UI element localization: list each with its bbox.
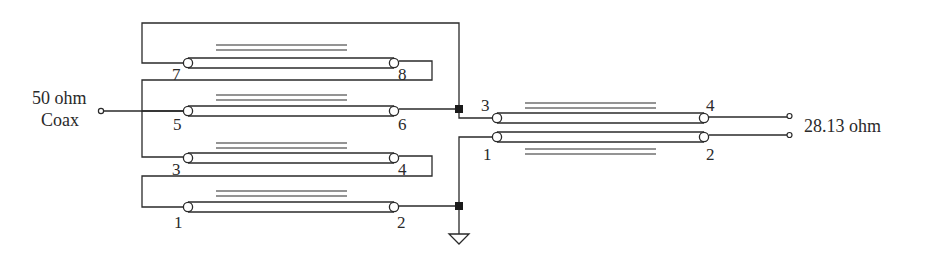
output-label-impedance: 28.13 ohm: [804, 116, 881, 136]
line-5-6: 5 6: [173, 95, 407, 134]
junction-dot-icon: [455, 202, 463, 210]
coax-end-icon: [492, 132, 501, 141]
coax-end-icon: [183, 106, 192, 115]
schematic-svg: 50 ohm Coax 7 8 5 6: [0, 0, 925, 257]
line-7-8: 7 8: [172, 45, 407, 84]
line-1-2: 1 2: [174, 191, 406, 232]
output-terminal-icon: [787, 133, 792, 138]
coax-end-icon: [492, 113, 501, 122]
junction-dot-icon: [455, 105, 463, 113]
output-port: 28.13 ohm: [709, 114, 881, 138]
output-terminal-icon: [787, 114, 792, 119]
coax-end-icon: [183, 202, 192, 211]
input-label-impedance: 50 ohm: [32, 88, 87, 108]
pin-label: 8: [398, 65, 407, 84]
pin-label: 2: [706, 145, 715, 164]
pin-label: 1: [174, 213, 183, 232]
pin-label: 2: [397, 213, 406, 232]
line-3-4: 3 4: [172, 143, 407, 179]
schematic-canvas: 50 ohm Coax 7 8 5 6: [0, 0, 925, 257]
pin-label: 4: [706, 96, 715, 115]
coax-end-icon: [389, 202, 398, 211]
pin-label: 6: [398, 115, 407, 134]
pin-label: 3: [481, 96, 490, 115]
right-transformer: 3 4 1 2: [481, 96, 715, 164]
input-port: 50 ohm Coax: [32, 88, 183, 130]
pin-label: 1: [483, 145, 492, 164]
input-terminal-icon: [98, 108, 103, 113]
ground-icon: [449, 234, 469, 244]
coax-end-icon: [183, 58, 192, 67]
input-label-type: Coax: [41, 110, 79, 130]
pin-label: 7: [172, 65, 181, 84]
coax-end-icon: [699, 132, 708, 141]
coax-end-icon: [183, 153, 192, 162]
pin-label: 5: [173, 115, 182, 134]
